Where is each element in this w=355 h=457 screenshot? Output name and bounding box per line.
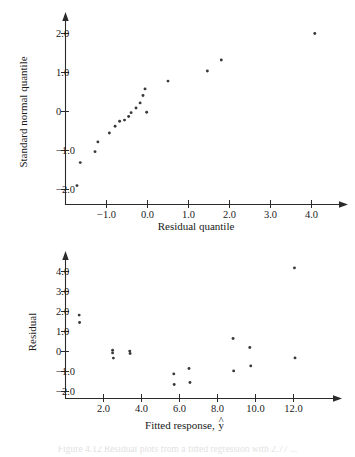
residual-data-point — [189, 381, 192, 384]
normal-qq-data-point — [313, 32, 316, 35]
top-x-tick-label-neg1: −1.0 — [97, 210, 116, 221]
normal-qq-plot-canvas — [0, 0, 355, 232]
normal-qq-data-point — [127, 115, 130, 118]
residual-data-point — [78, 314, 81, 317]
chart-panel-normal-qq: 2.0 1.0 0 −1.0 −2.0 −1.0 0.0 1.0 2.0 3.0… — [0, 0, 355, 232]
bottom-x-tick-label-2: 2.0 — [97, 404, 110, 415]
residual-data-point — [248, 346, 251, 349]
top-x-tick-label-0: 0.0 — [141, 210, 154, 221]
residual-data-point — [293, 266, 296, 269]
normal-qq-data-point — [96, 140, 99, 143]
bottom-x-tick-label-10: 10.0 — [246, 404, 264, 415]
top-x-axis-arrow-icon — [339, 201, 348, 207]
top-x-tick-label-1: 1.0 — [182, 210, 195, 221]
top-x-tick-label-2: 2.0 — [223, 210, 236, 221]
normal-qq-data-point — [206, 69, 209, 72]
bottom-y-axis-title: Residual — [27, 313, 38, 352]
top-y-axis-title: Standard normal quantile — [18, 56, 29, 167]
normal-qq-data-point — [135, 107, 138, 110]
residual-data-point — [232, 369, 235, 372]
residual-plot-canvas — [0, 232, 355, 432]
residual-data-point — [78, 321, 81, 324]
residual-data-point — [112, 357, 115, 360]
normal-qq-data-point — [94, 150, 97, 153]
residual-data-point — [129, 352, 132, 355]
bottom-x-tick-label-8: 8.0 — [211, 404, 224, 415]
normal-qq-data-point — [139, 101, 142, 104]
bottom-x-axis-title: Fitted response, ^y — [145, 420, 225, 431]
hat-accent-icon: ^ — [219, 416, 224, 426]
residual-data-point — [173, 383, 176, 386]
y-hat-symbol: ^y — [217, 420, 225, 431]
normal-qq-data-point — [130, 111, 133, 114]
residual-data-point — [172, 372, 175, 375]
normal-qq-data-point — [123, 119, 126, 122]
caption-strip: Figure 4.12 Residual plots from a fitted… — [0, 446, 355, 457]
normal-qq-data-point — [79, 161, 82, 164]
bottom-y-axis-arrow-icon — [62, 251, 68, 260]
bottom-x-axis-arrow-icon — [333, 395, 342, 401]
normal-qq-point-series — [76, 32, 317, 187]
normal-qq-data-point — [108, 132, 111, 135]
chart-panel-residual-vs-fitted: 4.0 3.0 2.0 1.0 0 −1.0 −2.0 2.0 4.0 6.0 … — [0, 232, 355, 432]
residual-point-series — [78, 266, 297, 386]
residual-data-point — [232, 337, 235, 340]
residual-data-point — [249, 364, 252, 367]
bottom-x-axis-title-prefix: Fitted response, — [145, 419, 217, 431]
top-y-axis-arrow-icon — [62, 12, 68, 21]
normal-qq-data-point — [167, 80, 170, 83]
normal-qq-data-point — [145, 111, 148, 114]
normal-qq-data-point — [114, 125, 117, 128]
top-x-axis-title: Residual quantile — [158, 221, 235, 232]
residual-data-point — [111, 351, 114, 354]
figure-caption-partial: Figure 4.12 Residual plots from a fitted… — [58, 446, 297, 454]
normal-qq-data-point — [118, 120, 121, 123]
residual-diagnostics-figure: 2.0 1.0 0 −1.0 −2.0 −1.0 0.0 1.0 2.0 3.0… — [0, 0, 355, 457]
residual-data-point — [294, 356, 297, 359]
normal-qq-data-point — [142, 94, 145, 97]
normal-qq-data-point — [144, 87, 147, 90]
normal-qq-data-point — [220, 59, 223, 62]
bottom-x-tick-label-6: 6.0 — [173, 404, 186, 415]
residual-data-point — [188, 367, 191, 370]
residual-data-point — [111, 349, 114, 352]
normal-qq-data-point — [76, 184, 79, 187]
bottom-x-tick-label-4: 4.0 — [135, 404, 148, 415]
bottom-x-tick-label-12: 12.0 — [284, 404, 302, 415]
top-x-tick-label-4: 4.0 — [305, 210, 318, 221]
top-x-tick-label-3: 3.0 — [264, 210, 277, 221]
